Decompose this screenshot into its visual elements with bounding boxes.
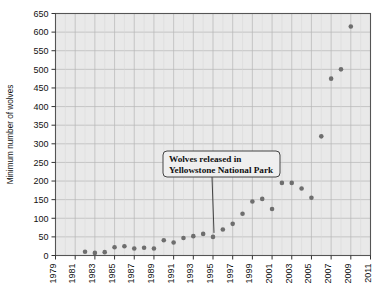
- y-tick-label: 600: [33, 27, 48, 37]
- data-point: [93, 251, 98, 256]
- y-tick-label: 0: [43, 251, 48, 261]
- x-tick-label: 1983: [87, 264, 97, 284]
- y-axis-title: Minimum number of wolves: [6, 85, 15, 185]
- x-tick-label: 1995: [205, 264, 215, 284]
- data-point: [122, 244, 127, 249]
- y-tick-label: 200: [33, 176, 48, 186]
- y-tick-label: 500: [33, 65, 48, 75]
- data-point: [191, 234, 196, 239]
- y-tick-label: 300: [33, 139, 48, 149]
- x-tick-label: 2003: [284, 264, 294, 284]
- wolf-population-chart: 050100150200250300350400450500550600650M…: [0, 0, 378, 307]
- chart-canvas: 050100150200250300350400450500550600650M…: [0, 0, 378, 307]
- data-point: [309, 195, 314, 200]
- data-point: [319, 134, 324, 139]
- data-point: [270, 207, 275, 212]
- data-point: [112, 245, 117, 250]
- y-tick-label: 50: [38, 232, 48, 242]
- data-point: [349, 24, 354, 29]
- data-point: [201, 232, 206, 237]
- data-point: [339, 67, 344, 72]
- x-tick-label: 1985: [107, 264, 117, 284]
- x-tick-label: 1979: [48, 264, 58, 284]
- x-tick-label: 1989: [146, 264, 156, 284]
- x-tick-label: 1981: [67, 264, 77, 284]
- data-point: [142, 245, 147, 250]
- data-point: [250, 199, 255, 204]
- data-point: [181, 236, 186, 241]
- y-tick-label: 400: [33, 102, 48, 112]
- x-tick-label: 1993: [185, 264, 195, 284]
- x-axis: 1979198119831985198719891991199319951997…: [48, 256, 373, 284]
- x-tick-label: 1991: [166, 264, 176, 284]
- y-tick-label: 450: [33, 83, 48, 93]
- data-point: [211, 235, 216, 240]
- y-tick-label: 100: [33, 214, 48, 224]
- data-point: [299, 186, 304, 191]
- x-tick-label: 1999: [244, 264, 254, 284]
- y-tick-label: 250: [33, 158, 48, 168]
- data-point: [161, 238, 166, 243]
- data-point: [132, 246, 137, 251]
- y-axis: 050100150200250300350400450500550600650: [33, 9, 55, 261]
- data-point: [289, 181, 294, 186]
- data-point: [83, 249, 88, 254]
- annotation-text-line-1: Wolves released in: [169, 154, 241, 164]
- x-tick-label: 2007: [323, 264, 333, 284]
- data-point: [152, 246, 157, 251]
- x-tick-label: 2009: [343, 264, 353, 284]
- data-point: [280, 181, 285, 186]
- y-tick-label: 150: [33, 195, 48, 205]
- x-tick-label: 2001: [264, 264, 274, 284]
- x-tick-label: 2005: [303, 264, 313, 284]
- annotation-text-line-2: Yellowstone National Park: [169, 165, 274, 175]
- y-tick-label: 350: [33, 120, 48, 130]
- y-tick-label: 650: [33, 9, 48, 19]
- y-tick-label: 550: [33, 46, 48, 56]
- data-point: [230, 222, 235, 227]
- x-tick-label: 2011: [363, 264, 373, 283]
- data-point: [171, 240, 176, 245]
- x-tick-label: 1987: [126, 264, 136, 284]
- data-point: [240, 212, 245, 217]
- data-point: [260, 197, 265, 202]
- data-point: [102, 250, 107, 255]
- data-point: [221, 227, 226, 232]
- data-point: [329, 76, 334, 81]
- x-tick-label: 1997: [225, 264, 235, 284]
